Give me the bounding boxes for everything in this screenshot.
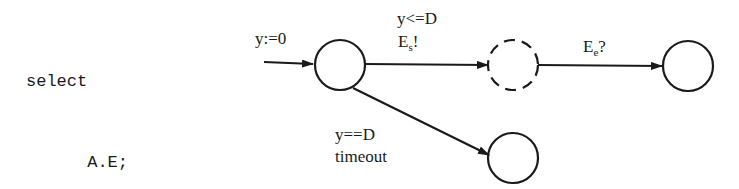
state-dashed [488,40,538,90]
guard-label-send: y<=D [397,9,437,28]
action-label-send: Es! [398,32,418,53]
state-initial [315,40,365,90]
state-timeout [488,133,538,183]
guard-label-timeout: y==D [335,125,375,144]
transition-receive [538,65,662,66]
timed-automaton-diagram: y:=0 y<=D Es! Ee? y==D timeout [0,0,739,189]
initial-label: y:=0 [255,29,286,48]
transition-timeout [353,88,489,155]
state-final [663,41,713,91]
action-label-timeout: timeout [335,147,387,166]
transition-send [365,64,488,65]
initial-arrow [264,62,313,64]
action-label-receive: Ee? [583,37,606,58]
